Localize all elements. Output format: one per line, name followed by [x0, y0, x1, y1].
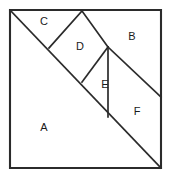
region-label-a: A: [40, 121, 48, 133]
dissection-figure: A B C D E F: [0, 0, 171, 180]
dissection-svg: A B C D E F: [0, 0, 171, 180]
region-label-b: B: [128, 30, 135, 42]
region-label-f: F: [134, 105, 141, 117]
region-label-d: D: [76, 40, 84, 52]
region-label-e: E: [101, 78, 108, 90]
region-label-c: C: [40, 15, 48, 27]
